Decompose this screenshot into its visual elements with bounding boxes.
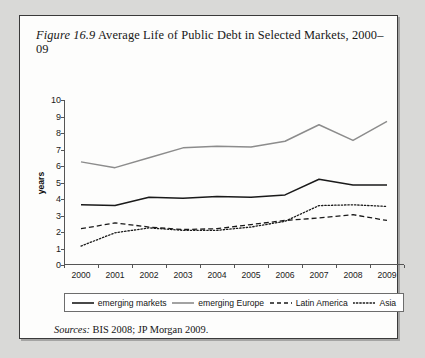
figure-sources: Sources: BIS 2008; JP Morgan 2009.	[54, 324, 208, 335]
x-tick-mark	[200, 265, 201, 268]
y-axis-label: years	[36, 171, 46, 193]
legend-label: Latin America	[296, 298, 348, 308]
legend-item-asia: Asia	[353, 298, 396, 308]
sources-text: BIS 2008; JP Morgan 2009.	[93, 324, 209, 335]
x-tick-label: 2008	[343, 270, 362, 280]
legend-label: Asia	[379, 298, 396, 308]
x-tick-label: 2001	[105, 270, 124, 280]
x-tick-mark	[404, 265, 405, 268]
legend-swatch-dotted	[353, 299, 375, 307]
sources-label: Sources:	[54, 324, 90, 335]
series-line-latin-america	[81, 215, 387, 230]
x-tick-mark	[166, 265, 167, 268]
page-background: Figure 16.9 Average Life of Public Debt …	[0, 0, 425, 358]
x-tick-mark	[64, 265, 65, 268]
x-tick-mark	[234, 265, 235, 268]
x-tick-label: 2005	[241, 270, 260, 280]
legend-item-emerging-europe: emerging Europe	[172, 298, 264, 308]
y-tick-label: 10	[51, 95, 61, 105]
legend-swatch-solid	[72, 299, 94, 307]
x-tick-label: 2004	[207, 270, 226, 280]
series-line-emerging-europe	[81, 121, 387, 167]
x-tick-mark	[370, 265, 371, 268]
legend-swatch-solid	[172, 299, 194, 307]
x-tick-label: 2002	[139, 270, 158, 280]
chart-series-lines	[64, 100, 404, 265]
x-tick-label: 2009	[377, 270, 396, 280]
figure-card: Figure 16.9 Average Life of Public Debt …	[19, 15, 398, 339]
x-tick-mark	[98, 265, 99, 268]
legend-label: emerging markets	[98, 298, 167, 308]
x-tick-label: 2007	[309, 270, 328, 280]
x-tick-mark	[132, 265, 133, 268]
series-line-emerging-markets	[81, 179, 387, 205]
x-tick-mark	[336, 265, 337, 268]
legend-swatch-dashed	[270, 299, 292, 307]
x-tick-label: 2003	[173, 270, 192, 280]
chart-plot-area: years 012345678910 200020012002200320042…	[64, 100, 404, 265]
legend-item-emerging-markets: emerging markets	[72, 298, 167, 308]
x-tick-mark	[268, 265, 269, 268]
x-tick-label: 2006	[275, 270, 294, 280]
x-tick-mark	[302, 265, 303, 268]
legend-item-latin-america: Latin America	[270, 298, 348, 308]
chart-legend: emerging marketsemerging EuropeLatin Ame…	[64, 293, 404, 312]
figure-number: Figure 16.9	[36, 28, 95, 42]
series-line-asia	[81, 205, 387, 246]
legend-label: emerging Europe	[198, 298, 264, 308]
x-tick-label: 2000	[71, 270, 90, 280]
figure-caption: Figure 16.9 Average Life of Public Debt …	[36, 28, 386, 56]
